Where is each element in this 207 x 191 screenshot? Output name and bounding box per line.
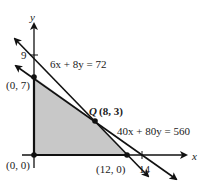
point-label-0-7: (0, 7): [6, 80, 30, 91]
x-axis-label: x: [192, 151, 197, 162]
point-q: [92, 118, 98, 124]
point-12-0: [124, 152, 130, 158]
x-tick-14: 14: [139, 164, 150, 175]
point-label-q-coords: (8, 3): [99, 106, 123, 117]
point-label-12-0: (12, 0): [96, 164, 125, 175]
equation-label-6x-8y-72: 6x + 8y = 72: [50, 59, 106, 70]
point-0-7: [31, 74, 37, 80]
equation-label-40x-80y-560: 40x + 80y = 560: [117, 126, 190, 137]
point-label-origin: (0, 0): [6, 160, 30, 171]
point-label-q-name: Q: [89, 106, 97, 117]
point-origin: [31, 152, 37, 158]
y-axis-label: y: [30, 12, 35, 23]
y-tick-9: 9: [21, 50, 27, 61]
